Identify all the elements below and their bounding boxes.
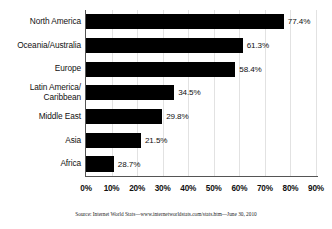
bar-value-label: 28.7% — [118, 152, 140, 176]
bar — [86, 156, 114, 171]
x-axis-tick-labels: 0%10%20%30%40%50%60%70%80%90% — [0, 184, 332, 198]
bar-value-label: 34.5% — [178, 81, 200, 105]
bar — [86, 62, 235, 77]
x-tick-label: 0% — [80, 184, 91, 193]
bar — [86, 38, 243, 53]
x-tick-label: 90% — [308, 184, 324, 193]
bar — [86, 14, 284, 29]
penetration-bar-chart: North America77.4%Oceania/Australia61.3%… — [0, 0, 332, 229]
bar-row: Middle East29.8% — [0, 105, 332, 129]
x-axis-line — [85, 176, 318, 177]
plot-area: North America77.4%Oceania/Australia61.3%… — [0, 6, 332, 182]
bar-rows: North America77.4%Oceania/Australia61.3%… — [0, 10, 332, 176]
x-tick-label: 50% — [206, 184, 222, 193]
bar-value-label: 29.8% — [166, 105, 188, 129]
category-label: North America — [0, 10, 81, 34]
bar — [86, 133, 141, 148]
bar-row: Oceania/Australia61.3% — [0, 34, 332, 58]
bar — [86, 109, 162, 124]
x-tick-label: 70% — [257, 184, 273, 193]
y-axis-line — [85, 10, 86, 176]
x-tick-label: 40% — [180, 184, 196, 193]
x-tick-label: 10% — [104, 184, 120, 193]
bar-value-label: 77.4% — [288, 10, 310, 34]
bar-row: Europe58.4% — [0, 57, 332, 81]
bar — [86, 85, 174, 100]
bar-row: Africa28.7% — [0, 152, 332, 176]
category-label: Oceania/Australia — [0, 34, 81, 58]
x-tick-label: 20% — [129, 184, 145, 193]
x-tick-label: 60% — [231, 184, 247, 193]
x-tick-label: 30% — [155, 184, 171, 193]
bar-value-label: 58.4% — [239, 57, 261, 81]
category-label: Africa — [0, 152, 81, 176]
source-caption: Source: Internet World Stats—www.interne… — [0, 211, 332, 217]
bar-value-label: 21.5% — [145, 129, 167, 153]
category-label: Latin America/ Caribbean — [0, 81, 81, 105]
bar-row: Asia21.5% — [0, 129, 332, 153]
x-tick-label: 80% — [283, 184, 299, 193]
bar-row: Latin America/ Caribbean34.5% — [0, 81, 332, 105]
category-label: Middle East — [0, 105, 81, 129]
category-label: Asia — [0, 129, 81, 153]
bar-row: North America77.4% — [0, 10, 332, 34]
category-label: Europe — [0, 57, 81, 81]
bar-value-label: 61.3% — [247, 34, 269, 58]
